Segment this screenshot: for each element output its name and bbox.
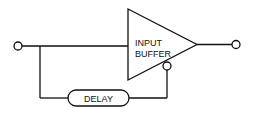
buffer-label-line1: INPUT bbox=[135, 38, 163, 48]
input-terminal bbox=[14, 42, 22, 50]
control-terminal bbox=[163, 62, 171, 70]
buffer-label-line2: BUFFER bbox=[135, 49, 172, 59]
diagram-canvas: INPUT BUFFER DELAY bbox=[0, 0, 255, 116]
output-terminal bbox=[232, 41, 240, 49]
delay-label: DELAY bbox=[84, 94, 113, 104]
